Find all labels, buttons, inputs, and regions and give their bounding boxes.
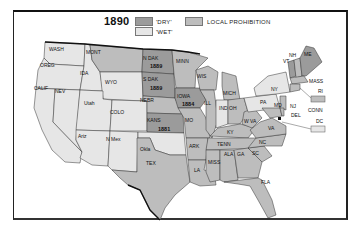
state-label: CONN	[308, 107, 323, 113]
state-label: OH	[229, 105, 237, 111]
state-label: 1884	[182, 101, 195, 107]
state-label: 1889	[150, 85, 162, 91]
state-label: 1889	[150, 63, 162, 69]
state-label: WIS	[197, 73, 207, 79]
state-label: ILL	[204, 100, 211, 106]
dc-swatch	[311, 126, 325, 132]
state-label: Ariz	[78, 133, 87, 139]
state-label: NEV	[55, 88, 66, 94]
state-label: SC	[252, 150, 259, 156]
state-label: FLA	[261, 179, 271, 185]
state-label: MASS	[309, 78, 324, 84]
state-ndak	[142, 49, 174, 74]
state-label: MD	[274, 102, 282, 108]
state-label: WASH	[49, 46, 64, 52]
state-wyo	[100, 72, 143, 101]
state-label: DEL	[291, 112, 301, 118]
state-ark	[186, 138, 208, 160]
state-label: IOWA	[177, 93, 191, 99]
state-label: VT	[283, 58, 289, 64]
state-md	[262, 108, 282, 118]
state-label: CALIF	[34, 85, 48, 91]
state-label: NY	[271, 86, 279, 92]
state-label: TENN	[217, 141, 231, 147]
state-label: IDA	[80, 70, 89, 76]
state-label: 1881	[158, 126, 170, 132]
state-label: OREG	[40, 62, 55, 68]
state-label: MISS	[208, 159, 221, 165]
state-label: NEBR	[140, 97, 154, 103]
state-conn	[290, 84, 300, 92]
state-colo	[110, 100, 147, 131]
state-ny	[254, 72, 290, 96]
state-label: GA	[237, 151, 245, 157]
state-label: LA	[194, 167, 201, 173]
state-label: IND	[219, 105, 228, 111]
state-label: ARK	[189, 143, 200, 149]
state-label: Okla	[140, 146, 151, 152]
state-label: MINN	[176, 58, 189, 64]
state-label: MICH	[223, 90, 236, 96]
ri-swatch	[311, 96, 325, 102]
state-label: ALA	[224, 151, 234, 157]
state-miss	[206, 150, 220, 182]
dc-marker	[278, 117, 281, 120]
state-label: PA	[260, 99, 267, 105]
state-label: COLO	[110, 109, 124, 115]
state-label: NJ	[290, 103, 297, 109]
us-map: WASH OREG CALIF NEV IDA MONT WYO Utah CO…	[0, 0, 353, 238]
state-label: KY	[227, 129, 234, 135]
state-label: NH	[289, 52, 297, 58]
state-label: WYO	[105, 79, 117, 85]
state-label: Utah	[84, 100, 95, 106]
state-label: MONT	[86, 49, 101, 55]
state-label: N DAK	[143, 55, 159, 61]
state-label: N Mex	[106, 136, 121, 142]
state-label: MO	[185, 117, 193, 123]
state-label: NC	[259, 139, 267, 145]
state-label: S DAK	[143, 76, 159, 82]
state-label: TEX	[146, 160, 156, 166]
state-label: KANS	[147, 117, 161, 123]
state-label: W VA	[244, 118, 257, 124]
state-label: RI	[318, 88, 323, 94]
state-label: DC	[316, 118, 324, 124]
state-label: VA	[268, 125, 275, 131]
state-label: ME	[304, 51, 312, 57]
